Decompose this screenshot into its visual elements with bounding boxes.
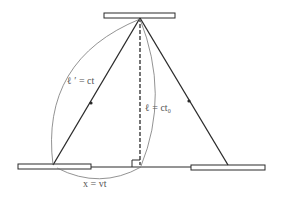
displacement-label: x = vt [83,178,107,189]
moving-path-label: ℓ ′ = ct [67,75,95,86]
left-diagonal-light-path [53,18,140,165]
bottom-left-mirror [18,164,91,169]
light-clock-diagram: ℓ ′ = ct ℓ = ct0 x = vt [0,0,282,197]
rest-path-label: ℓ = ct0 [145,102,171,114]
right-angle-marker [132,160,140,167]
right-diagonal-light-path [140,18,228,165]
left-path-arrow-icon [89,101,92,104]
top-mirror [104,13,175,18]
rest-path-label-main: ℓ = ct [145,102,168,113]
right-path-arrow-icon [187,99,190,102]
rest-path-arc [140,19,155,166]
rest-path-label-subscript: 0 [168,108,171,114]
bottom-right-mirror [191,165,265,170]
